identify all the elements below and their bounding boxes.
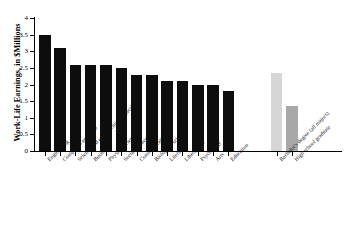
y-tick: [30, 151, 35, 152]
x-tick: [137, 152, 138, 156]
x-tick: [60, 152, 61, 156]
y-tick-label: 4: [8, 14, 28, 22]
x-tick: [106, 152, 107, 156]
x-tick: [167, 152, 168, 156]
x-tick: [213, 152, 214, 156]
x-tick: [91, 152, 92, 156]
x-axis-label: Arts: [214, 151, 225, 162]
x-tick: [292, 152, 293, 156]
x-tick: [152, 152, 153, 156]
bar: [39, 35, 51, 151]
bar: [54, 48, 66, 151]
x-tick: [75, 152, 76, 156]
bar: [223, 91, 235, 151]
y-tick-label: 2.5: [8, 64, 28, 72]
x-tick: [228, 152, 229, 156]
bar-chart: Work-Life Earnings, in $Millions 00.511.…: [0, 0, 349, 247]
y-tick-label: 3.5: [8, 31, 28, 39]
y-tick-label: 0.5: [8, 130, 28, 138]
bar: [271, 73, 283, 151]
y-tick-label: 0: [8, 147, 28, 155]
y-tick-label: 1.5: [8, 97, 28, 105]
x-tick: [121, 152, 122, 156]
y-tick-label: 1: [8, 114, 28, 122]
x-tick: [182, 152, 183, 156]
x-tick: [45, 152, 46, 156]
x-tick: [198, 152, 199, 156]
x-tick: [277, 152, 278, 156]
plot-area: [35, 18, 342, 151]
y-tick-label: 3: [8, 47, 28, 55]
y-tick-label: 2: [8, 81, 28, 89]
